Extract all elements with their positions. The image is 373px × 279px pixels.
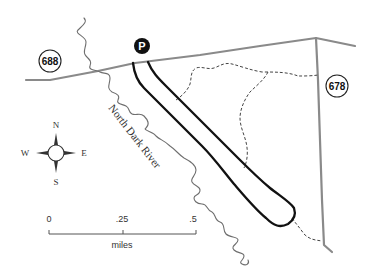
dashed-trail-inner: [240, 72, 268, 168]
road-shield-688: 688: [39, 50, 61, 72]
compass-north-label: N: [53, 120, 60, 130]
compass-needle-south: [54, 161, 58, 173]
compass-south-label: S: [53, 177, 58, 187]
scale-tick-05: .5: [189, 214, 197, 224]
river-label: North Dark River: [106, 102, 163, 171]
compass-rose: N S E W: [21, 120, 88, 187]
dashed-trail-southeast: [292, 218, 322, 241]
road-shield-678: 678: [326, 75, 348, 97]
road-678: [316, 38, 332, 252]
compass-needle-west: [36, 151, 48, 155]
compass-needle-north: [54, 133, 58, 145]
scale-tick-0: 0: [46, 214, 51, 224]
trail-map: P 688 678 North Dark River N S E W 0 .25…: [0, 0, 373, 279]
loop-trail: [133, 62, 295, 226]
svg-text:678: 678: [329, 81, 346, 92]
road-688: [26, 38, 355, 80]
scale-tick-025: .25: [116, 214, 129, 224]
scale-bar: 0 .25 .5 miles: [46, 214, 196, 250]
svg-text:P: P: [138, 40, 145, 52]
svg-text:688: 688: [42, 56, 59, 67]
dashed-trail-north: [176, 63, 318, 100]
compass-west-label: W: [21, 148, 30, 158]
compass-needle-east: [64, 151, 76, 155]
scale-unit-label: miles: [111, 240, 133, 250]
compass-east-label: E: [81, 148, 87, 158]
parking-icon: P: [134, 38, 150, 54]
